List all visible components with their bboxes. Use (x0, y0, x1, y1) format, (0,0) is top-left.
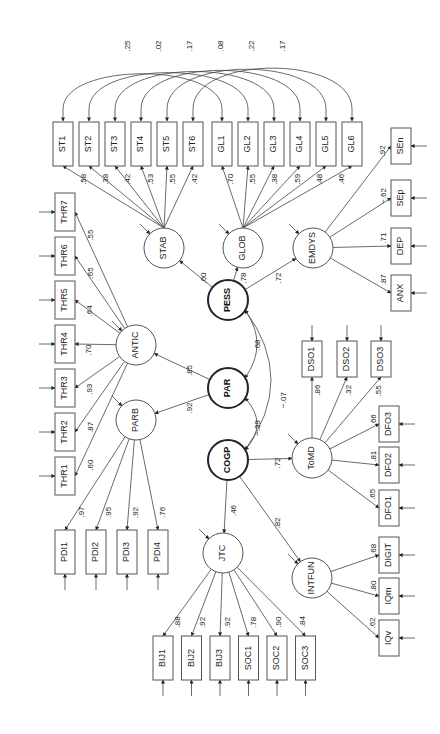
loading-value: .55 (168, 173, 177, 185)
indicator-label: SEp (395, 189, 405, 206)
loading-value: .38 (270, 173, 279, 185)
loading-value: .65 (86, 267, 95, 279)
error-correlation-value: .02 (154, 40, 163, 52)
indicator-label: GL4 (294, 135, 304, 152)
error-correlation-arc (141, 70, 300, 109)
loading-value: .92 (131, 506, 140, 518)
path-coefficient: .72 (274, 272, 283, 284)
path-coefficient: .82 (273, 517, 282, 529)
structural-path (155, 395, 209, 414)
loading-value: −.62 (379, 187, 388, 203)
loading-value: .55 (374, 385, 383, 397)
error-correlation-arc (193, 68, 352, 109)
latent-label: GLOB (237, 235, 247, 260)
structural-path (234, 267, 238, 281)
loading-value: .78 (249, 616, 258, 628)
structural-path (154, 353, 210, 379)
loading-value: .42 (190, 173, 199, 185)
loading-arrow (140, 440, 158, 530)
indicator-label: SEn (395, 137, 405, 154)
loading-arrow (333, 246, 391, 247)
loading-value: .92 (223, 616, 232, 628)
loading-value: .70 (84, 344, 93, 356)
indicator-label: DFO3 (383, 412, 393, 436)
path-coefficient: .85 (185, 364, 194, 376)
loading-value: .88 (173, 616, 182, 628)
indicator-label: DIGIT (383, 542, 393, 567)
indicator-label: DSO2 (341, 347, 351, 372)
disturbance-arrow (219, 224, 229, 234)
indicator-label: PDI3 (121, 542, 131, 562)
sem-diagram: .58.38.42.53.55.42.70.55.38.59.48.46.92−… (0, 0, 440, 734)
loading-arrow (115, 166, 164, 228)
loading-value: .87 (379, 274, 388, 286)
latent-label: INTFUN (306, 562, 316, 595)
loading-value: .97 (77, 506, 86, 518)
indicator-label: IQv (383, 631, 393, 646)
path-coefficient: .92 (185, 402, 194, 414)
loading-value: .93 (85, 383, 94, 395)
loading-value: .55 (86, 229, 95, 241)
loading-value: .70 (226, 173, 235, 185)
loading-arrow (220, 573, 222, 636)
disturbance-arrow (112, 396, 122, 406)
indicator-label: BIJ3 (214, 649, 224, 667)
structural-path (248, 458, 292, 459)
latent-label: STAB (158, 237, 168, 260)
indicator-label: THR1 (59, 464, 69, 488)
loading-value: .38 (101, 173, 110, 185)
error-correlation-arc (115, 72, 274, 110)
loading-arrow (164, 166, 167, 228)
loading-value: .90 (274, 616, 283, 628)
indicator-label: DSO3 (375, 347, 385, 372)
loading-value: .60 (86, 459, 95, 471)
indicator-label: SOC1 (243, 646, 253, 671)
loading-value: .68 (369, 543, 378, 555)
disturbance-arrow (288, 434, 298, 444)
loading-arrow (75, 300, 120, 333)
indicator-label: IQm (383, 588, 393, 605)
loading-arrow (331, 555, 379, 572)
indicator-label: THR5 (59, 288, 69, 312)
loading-value: .62 (368, 617, 377, 629)
disturbance-arrow (289, 224, 299, 234)
correlation-value: .68 (253, 339, 262, 351)
indicator-label: DEP (395, 237, 405, 256)
indicator-label: GL1 (216, 135, 226, 152)
indicator-label: THR2 (59, 420, 69, 444)
loading-arrow (330, 424, 379, 449)
loading-value: .80 (369, 580, 378, 592)
correlation-value: −.07 (279, 392, 288, 408)
loading-value: .53 (146, 173, 155, 185)
error-correlation-arc (63, 74, 222, 109)
indicator-label: ST4 (135, 136, 145, 153)
indicator-label: ANX (395, 284, 405, 303)
error-correlation-arc (89, 73, 248, 109)
loading-value: .46 (337, 173, 346, 185)
indicator-label: THR7 (59, 200, 69, 224)
indicator-label: DFO1 (383, 496, 393, 520)
indicator-label: ST3 (109, 136, 119, 153)
indicator-label: BIJ1 (157, 649, 167, 667)
loading-arrow (75, 212, 128, 327)
indicator-label: ST5 (161, 136, 171, 153)
loading-value: .42 (123, 173, 132, 185)
path-coefficient: .60 (199, 272, 208, 284)
indicator-label: PDI4 (152, 542, 162, 562)
indicator-label: ST2 (83, 136, 93, 153)
indicator-label: SOC3 (300, 646, 310, 671)
indicator-label: GL3 (268, 135, 278, 152)
latent-label: COGP (222, 447, 232, 474)
loading-value: .81 (369, 450, 378, 462)
loading-arrow (75, 344, 116, 345)
loading-value: .64 (85, 305, 94, 317)
loading-value: .76 (158, 506, 167, 518)
path-coefficient: .46 (229, 504, 238, 516)
loading-value: .71 (379, 232, 388, 244)
latent-label: ANTIC (130, 331, 140, 359)
loading-arrow (327, 591, 379, 638)
indicator-label: THR3 (59, 376, 69, 400)
loading-value: .86 (313, 384, 322, 396)
indicator-label: PDI2 (90, 542, 100, 562)
loading-value: .32 (344, 384, 353, 396)
